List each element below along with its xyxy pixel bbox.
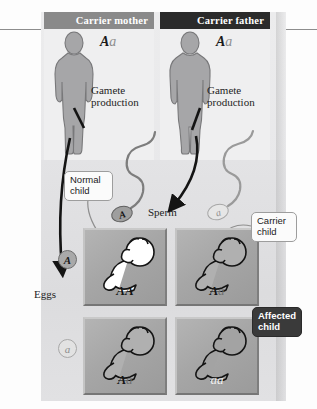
callout-affected-child: Affected child <box>252 307 302 337</box>
allele-1: A <box>116 283 125 298</box>
gamete-production-label-mother: Gamete production <box>91 84 151 109</box>
callout-line2: child <box>257 227 291 238</box>
parent-genotype-mother: Aa <box>100 34 116 50</box>
allele-1: A <box>209 283 218 298</box>
callout-line2: child <box>258 322 296 333</box>
punnett-square: AA Aa <box>83 228 263 401</box>
allele-2: a <box>126 372 133 387</box>
parent-panel-mother: Carrier mother Aa Gamete production <box>44 12 154 160</box>
egg-allele-recessive: a <box>58 339 77 358</box>
parent-header-father: Carrier father <box>160 12 270 29</box>
allele-1: A <box>117 372 126 387</box>
allele-2: A <box>125 283 134 298</box>
parent-header-mother: Carrier mother <box>44 12 154 29</box>
punnett-genotype-Aa-top: Aa <box>177 283 257 299</box>
allele-recessive: a <box>225 34 232 49</box>
callout-normal-child: Normal child <box>64 171 113 201</box>
parent-panel-father: Carrier father Aa Gamete production <box>160 12 270 160</box>
eggs-label: Eggs <box>34 288 56 300</box>
header-rule-left <box>0 29 41 30</box>
punnett-genotype-Aa-bottom: Aa <box>85 372 165 388</box>
gamete-label-line2: production <box>207 96 267 108</box>
gamete-production-label-father: Gamete production <box>207 84 267 109</box>
sperm-label: Sperm <box>148 206 177 218</box>
allele-2: a <box>217 372 224 387</box>
allele-dominant: A <box>100 34 109 49</box>
gamete-label-line1: Gamete <box>207 84 267 96</box>
diagram-plate-edge <box>276 12 286 401</box>
punnett-genotype-AA: AA <box>85 283 165 299</box>
punnett-cell-aa: aa <box>175 317 259 395</box>
genetics-diagram: Carrier mother Aa Gamete production Carr… <box>0 0 317 409</box>
allele-2: a <box>218 283 225 298</box>
punnett-cell-Aa-top: Aa <box>175 228 259 306</box>
gamete-label-line1: Gamete <box>91 84 151 96</box>
callout-carrier-child: Carrier child <box>251 212 297 242</box>
gamete-label-line2: production <box>91 96 151 108</box>
allele-recessive: a <box>109 34 116 49</box>
parent-genotype-father: Aa <box>216 34 232 50</box>
punnett-cell-AA: AA <box>83 228 167 306</box>
egg-allele-dominant: A <box>58 250 77 269</box>
punnett-genotype-aa: aa <box>177 372 257 388</box>
header-rule-right <box>286 29 317 30</box>
allele-dominant: A <box>216 34 225 49</box>
punnett-cell-Aa-bottom: Aa <box>83 317 167 395</box>
callout-line2: child <box>70 186 107 197</box>
